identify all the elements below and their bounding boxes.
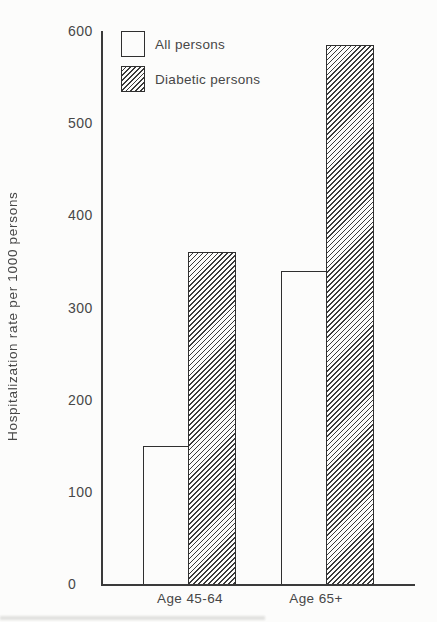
y-tick-label: 300 [68,300,93,316]
bar-age-45-64-diabetic-persons [188,252,236,585]
legend-item-all-persons: All persons [121,31,260,57]
y-axis-line [101,31,103,585]
y-tick-label: 100 [68,484,93,500]
legend-label-all-persons: All persons [155,37,225,52]
bar-chart-figure: Hospitalization rate per 1000 persons 01… [0,0,437,622]
legend-item-diabetic-persons: Diabetic persons [121,66,260,92]
bar-age-45-64-all-persons [143,446,190,585]
y-tick-label: 600 [68,23,93,39]
y-tick-label: 200 [68,392,93,408]
legend-label-diabetic-persons: Diabetic persons [155,72,260,87]
y-tick-label: 0 [68,576,76,592]
x-category-label: Age 65+ [289,591,342,606]
x-axis-line [101,584,415,586]
y-tick-label: 400 [68,207,93,223]
x-category-label: Age 45-64 [157,591,223,606]
legend-swatch-all-persons [121,31,145,57]
legend-swatch-diabetic-persons [121,66,145,92]
legend: All persons Diabetic persons [121,31,260,101]
cropped-caption-smudge [0,616,265,620]
y-axis-title: Hospitalization rate per 1000 persons [5,170,27,462]
bar-age-65-diabetic-persons [326,45,374,585]
bar-age-65-all-persons [281,271,328,585]
y-tick-label: 500 [68,115,93,131]
